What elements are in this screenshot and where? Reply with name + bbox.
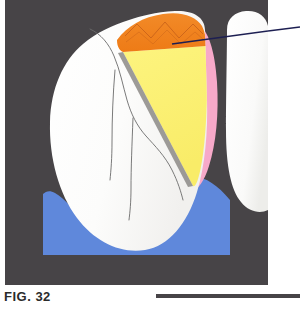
figure-caption: FIG. 32 bbox=[4, 290, 51, 303]
adjacent-tooth bbox=[226, 11, 268, 212]
restoration-orange bbox=[117, 13, 206, 52]
caption-row: FIG. 32 bbox=[0, 290, 300, 309]
figure-page: FIG. 32 bbox=[0, 0, 300, 309]
figure-frame bbox=[5, 0, 268, 285]
tooth-illustration bbox=[5, 0, 268, 285]
footer-rule bbox=[156, 294, 300, 298]
callout-leader-extension bbox=[268, 0, 300, 40]
